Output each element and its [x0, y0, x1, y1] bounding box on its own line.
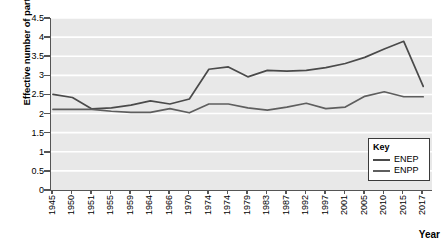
- legend-title: Key: [373, 142, 425, 152]
- y-axis-ticks: 4.543.532.521.510.50: [18, 0, 44, 243]
- x-tick-label: 1950: [66, 195, 76, 215]
- x-tick-label: 1987: [281, 195, 291, 215]
- chart-container: Effective number of parties 4.543.532.52…: [0, 0, 446, 243]
- x-tick-label: 1970: [183, 195, 193, 215]
- legend-swatch-enep: [373, 159, 390, 161]
- y-tick-mark: [44, 94, 50, 96]
- y-tick-mark: [44, 75, 50, 77]
- x-tick-label: 1997: [320, 195, 330, 215]
- x-tick-label: 1955: [105, 195, 115, 215]
- legend-item-enep: ENEP: [373, 154, 425, 165]
- x-tick-label: 1974: [222, 195, 232, 215]
- y-tick-mark: [44, 36, 50, 38]
- x-tick-label: 2017: [417, 195, 427, 215]
- y-tick-mark: [44, 151, 50, 153]
- legend: Key ENEP ENPP: [368, 138, 430, 181]
- legend-swatch-enpp: [373, 170, 390, 172]
- x-tick-label: 1979: [242, 195, 252, 215]
- x-tick-label: 1959: [125, 195, 135, 215]
- x-tick-label: 1945: [47, 195, 57, 215]
- x-tick-label: 1983: [261, 195, 271, 215]
- y-tick-mark: [44, 189, 50, 191]
- x-tick-label: 1974: [203, 195, 213, 215]
- y-tick-label: 2.5: [31, 89, 44, 99]
- y-tick-mark: [44, 55, 50, 57]
- x-tick-label: 1966: [164, 195, 174, 215]
- y-tick-label: 3.5: [31, 51, 44, 61]
- x-tick-label: 2010: [378, 195, 388, 215]
- y-tick-label: 1.5: [31, 128, 44, 138]
- legend-label-enpp: ENPP: [394, 165, 419, 176]
- series-lines: [53, 41, 423, 112]
- legend-item-enpp: ENPP: [373, 165, 425, 176]
- y-tick-label: 0.5: [31, 166, 44, 176]
- y-tick-label: 4.5: [31, 13, 44, 23]
- x-tick-label: 2001: [339, 195, 349, 215]
- x-tick-label: 1951: [86, 195, 96, 215]
- y-tick-mark: [44, 17, 50, 19]
- x-tick-label: 2005: [359, 195, 369, 215]
- x-axis-label: Year: [419, 229, 440, 240]
- x-tick-label: 2015: [398, 195, 408, 215]
- y-tick-mark: [44, 113, 50, 115]
- y-tick-mark: [44, 170, 50, 172]
- x-tick-label: 1964: [144, 195, 154, 215]
- y-tick-mark: [44, 132, 50, 134]
- legend-label-enep: ENEP: [394, 154, 419, 165]
- x-tick-label: 1992: [300, 195, 310, 215]
